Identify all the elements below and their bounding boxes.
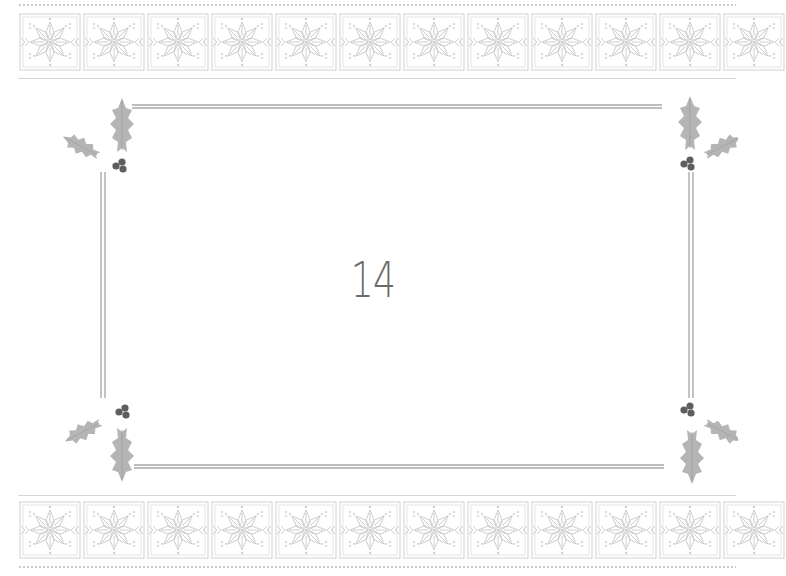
holly-top-left-icon	[50, 84, 140, 184]
snowflake-tile-icon	[722, 12, 786, 72]
snowflake-tile-icon	[658, 500, 722, 560]
bottom-dotted-line	[18, 566, 736, 568]
bottom-snowflake-pattern	[18, 500, 786, 560]
bottom-rule	[18, 495, 736, 496]
frame-top-line	[132, 104, 662, 109]
top-dotted-line	[18, 4, 736, 6]
snowflake-tile-icon	[210, 12, 274, 72]
top-snowflake-pattern	[18, 12, 786, 72]
top-border-band	[0, 0, 736, 80]
holly-top-right-icon	[648, 84, 738, 184]
snowflake-tile-icon	[274, 500, 338, 560]
snowflake-tile-icon	[594, 500, 658, 560]
snowflake-tile-icon	[338, 500, 402, 560]
snowflake-tile-icon	[274, 12, 338, 72]
snowflake-tile-icon	[402, 12, 466, 72]
snowflake-tile-icon	[18, 12, 82, 72]
frame-left-line	[100, 172, 106, 398]
holly-bottom-left-icon	[50, 390, 140, 490]
snowflake-tile-icon	[466, 500, 530, 560]
frame-bottom-line	[134, 464, 664, 469]
snowflake-tile-icon	[722, 500, 786, 560]
frame-right-line	[688, 172, 694, 398]
snowflake-tile-icon	[146, 12, 210, 72]
snowflake-tile-icon	[402, 500, 466, 560]
snowflake-tile-icon	[530, 12, 594, 72]
snowflake-tile-icon	[658, 12, 722, 72]
top-rule	[18, 78, 736, 79]
snowflake-tile-icon	[82, 500, 146, 560]
bottom-border-band	[0, 492, 736, 576]
snowflake-tile-icon	[18, 500, 82, 560]
snowflake-tile-icon	[210, 500, 274, 560]
snowflake-tile-icon	[146, 500, 210, 560]
snowflake-tile-icon	[338, 12, 402, 72]
snowflake-tile-icon	[466, 12, 530, 72]
card-number: 14	[333, 250, 412, 310]
snowflake-tile-icon	[594, 12, 658, 72]
snowflake-tile-icon	[82, 12, 146, 72]
snowflake-tile-icon	[530, 500, 594, 560]
holly-bottom-right-icon	[648, 390, 738, 490]
